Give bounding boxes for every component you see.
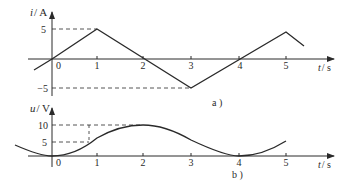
b-ytick-10: 10 xyxy=(38,120,48,131)
b-xtick-4: 4 xyxy=(237,157,242,168)
a-xtick-2: 2 xyxy=(141,60,146,71)
a-xtick-4: 4 xyxy=(238,60,243,71)
b-y-label: u/ V xyxy=(30,102,50,114)
a-ytick-5: 5 xyxy=(41,24,46,35)
b-caption: b ) xyxy=(232,169,243,181)
a-xtick-0: 0 xyxy=(56,60,61,71)
a-xtick-3: 3 xyxy=(189,60,194,71)
a-x-label: t/ s xyxy=(318,62,331,73)
a-ytick-neg5: −5 xyxy=(37,83,48,94)
b-xtick-0: 0 xyxy=(56,157,61,168)
b-ytick-5: 5 xyxy=(42,137,47,148)
a-xtick-5: 5 xyxy=(284,60,289,71)
a-y-label: i/ A xyxy=(30,6,47,18)
b-voltage-waveform xyxy=(15,125,286,156)
b-xtick-2: 2 xyxy=(141,157,146,168)
a-xtick-1: 1 xyxy=(95,60,100,71)
b-xtick-1: 1 xyxy=(95,157,100,168)
diagram-canvas: i/ A 5 −5 0 1 2 3 4 5 t/ s a ) u/ V 10 5… xyxy=(0,0,341,193)
a-caption: a ) xyxy=(212,97,222,109)
b-x-label: t/ s xyxy=(318,159,331,170)
b-xtick-5: 5 xyxy=(284,157,289,168)
figure-a: i/ A 5 −5 0 1 2 3 4 5 t/ s a ) xyxy=(28,6,334,109)
figure-b: u/ V 10 5 0 1 2 3 4 5 t/ s b ) xyxy=(15,102,334,181)
b-xtick-3: 3 xyxy=(189,157,194,168)
